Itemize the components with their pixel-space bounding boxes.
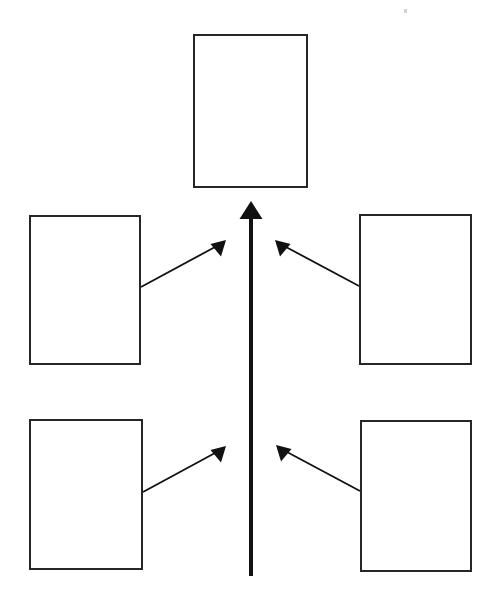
left-upper-arrow-shaft [141, 247, 215, 287]
diagram-canvas [0, 0, 501, 606]
spine-arrow [240, 201, 263, 576]
node-box-top[interactable] [193, 34, 308, 188]
right-lower-arrow-shaft [287, 452, 360, 491]
left-upper-arrow-head [211, 240, 227, 257]
right-upper-arrow-head [275, 240, 291, 257]
scan-speck-artifact [404, 9, 407, 13]
right-upper-arrow-shaft [286, 247, 359, 286]
node-box-left-upper[interactable] [29, 215, 141, 365]
node-box-right-upper[interactable] [359, 214, 472, 365]
left-lower-arrow-shaft [143, 453, 215, 492]
right-lower-arrow [276, 445, 360, 491]
node-box-left-lower[interactable] [29, 419, 143, 570]
left-lower-arrow [143, 446, 226, 492]
left-lower-arrow-head [211, 446, 227, 463]
spine-arrow-head [240, 201, 263, 219]
right-upper-arrow [275, 240, 359, 286]
node-box-right-lower[interactable] [360, 420, 472, 572]
right-lower-arrow-head [276, 445, 292, 462]
left-upper-arrow [141, 240, 226, 287]
